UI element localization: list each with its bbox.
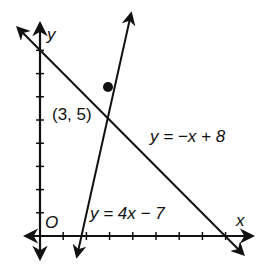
origin-label: O (45, 213, 58, 232)
line2-label: y = 4x − 7 (89, 204, 165, 223)
coordinate-graph: y x O (3, 5) y = −x + 8 y = 4x − 7 (0, 0, 268, 269)
point-label: (3, 5) (52, 105, 92, 124)
intersection-point (103, 82, 113, 92)
y-axis-label: y (46, 25, 57, 44)
line1-label: y = −x + 8 (149, 127, 226, 146)
x-axis-label: x (235, 211, 245, 230)
